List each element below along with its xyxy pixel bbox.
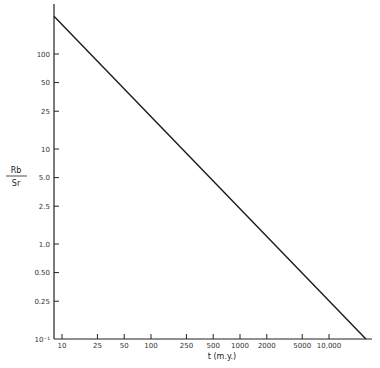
x-tick-label: 50 <box>120 342 129 350</box>
x-tick-label: 100 <box>144 342 157 350</box>
y-tick-label: 0.50 <box>34 269 50 277</box>
x-tick-label: 5000 <box>293 342 311 350</box>
data-series <box>54 16 366 339</box>
x-tick-label: 25 <box>93 342 102 350</box>
y-tick-label: 2.5 <box>39 203 50 211</box>
y-tick-label: 1.0 <box>39 241 50 249</box>
x-tick-label: 10,000 <box>317 342 342 350</box>
y-ticks: 1005025105.02.51.00.500.2510⁻¹ <box>34 51 59 344</box>
y-tick-label: 25 <box>41 108 50 116</box>
x-tick-label: 500 <box>207 342 220 350</box>
y-axis-label: Rb Sr <box>6 166 27 188</box>
x-tick-label: 2000 <box>258 342 276 350</box>
y-tick-label: 10⁻¹ <box>35 336 51 344</box>
x-axis-label: t (m.y.) <box>208 352 236 361</box>
series-line <box>54 16 366 339</box>
x-tick-label: 1000 <box>231 342 249 350</box>
y-tick-label: 10 <box>41 146 50 154</box>
y-tick-label: 100 <box>37 51 50 59</box>
x-tick-label: 250 <box>180 342 193 350</box>
y-tick-label: 5.0 <box>39 174 50 182</box>
chart: 1005025105.02.51.00.500.2510⁻¹ 102550100… <box>0 0 380 368</box>
y-label-denominator: Sr <box>12 179 21 188</box>
y-tick-label: 50 <box>41 79 50 87</box>
y-label-numerator: Rb <box>11 166 22 175</box>
x-ticks: 10255010025050010002000500010,000 <box>58 334 342 350</box>
x-tick-label: 10 <box>58 342 67 350</box>
y-tick-label: 0.25 <box>34 298 50 306</box>
